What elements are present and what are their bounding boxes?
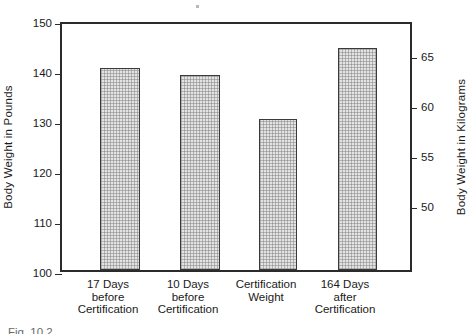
bar-17-days-before-certification — [100, 68, 140, 271]
y-tick-mark-right — [410, 208, 417, 209]
y-tick-label-left: 120 — [33, 168, 52, 180]
bar-10-days-before-certification — [180, 75, 220, 270]
figure-caption-clipped: Fig. 10.2 — [8, 326, 53, 334]
page-artifact-speck — [196, 5, 199, 8]
x-axis-label-2: Certification Weight — [221, 278, 311, 303]
y-tick-label-right: 60 — [421, 102, 434, 114]
bar-certification-weight — [259, 119, 297, 270]
y-axis-title-pounds: Body Weight in Pounds — [2, 85, 14, 209]
y-tick-mark-right — [410, 108, 417, 109]
y-tick-label-right: 50 — [421, 202, 434, 214]
y-tick-label-left: 150 — [33, 18, 52, 30]
y-tick-mark-left — [55, 124, 62, 125]
x-axis-label-3: 164 Days after Certification — [300, 278, 390, 316]
x-axis-label-0: 17 Days before Certification — [63, 278, 153, 316]
bar-chart-figure: Body Weight in Pounds Body Weight in Kil… — [0, 0, 474, 334]
y-tick-label-right: 65 — [421, 52, 434, 64]
y-tick-mark-left — [55, 224, 62, 225]
y-axis-title-kilograms: Body Weight in Kilograms — [455, 79, 467, 215]
y-tick-mark-left — [55, 24, 62, 25]
y-tick-label-left: 100 — [33, 268, 52, 280]
y-tick-label-left: 130 — [33, 118, 52, 130]
y-tick-mark-left — [55, 274, 62, 275]
y-tick-mark-right — [410, 58, 417, 59]
y-tick-label-left: 110 — [34, 218, 52, 230]
y-tick-label-left: 140 — [33, 68, 52, 80]
bar-164-days-after-certification — [338, 48, 377, 271]
y-tick-mark-left — [55, 174, 62, 175]
y-tick-label-right: 55 — [421, 152, 434, 164]
x-axis-label-1: 10 Days before Certification — [143, 278, 233, 316]
y-tick-mark-left — [55, 74, 62, 75]
plot-area: 150 140 130 120 110 100 65 60 — [60, 22, 412, 272]
y-tick-mark-right — [410, 158, 417, 159]
